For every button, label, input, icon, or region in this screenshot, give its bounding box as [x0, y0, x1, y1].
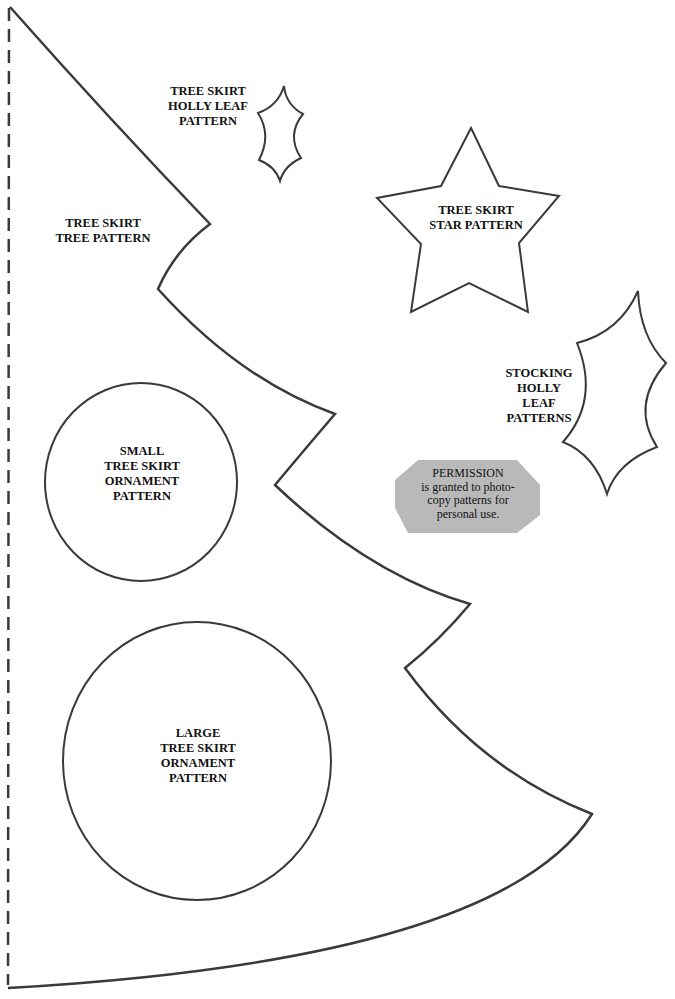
- holly-leaf-stocking-outline: [563, 291, 666, 494]
- label-line: HOLLY: [505, 381, 572, 396]
- label-line: STOCKING: [505, 366, 572, 381]
- pattern-outlines: [0, 0, 675, 999]
- label-line: TREE PATTERN: [55, 231, 150, 246]
- small-ornament-label: SMALL TREE SKIRT ORNAMENT PATTERN: [104, 444, 180, 504]
- permission-line: personal use.: [421, 508, 515, 522]
- label-line: ORNAMENT: [160, 756, 236, 771]
- star-pattern-label: TREE SKIRT STAR PATTERN: [429, 203, 522, 233]
- tree-pattern-label: TREE SKIRT TREE PATTERN: [55, 216, 150, 246]
- label-line: LEAF: [505, 396, 572, 411]
- label-line: PATTERN: [168, 114, 248, 129]
- label-line: HOLLY LEAF: [168, 99, 248, 114]
- label-line: STAR PATTERN: [429, 218, 522, 233]
- fold-line: [8, 8, 9, 985]
- label-line: SMALL: [104, 444, 180, 459]
- label-line: LARGE: [160, 726, 236, 741]
- stocking-holly-label: STOCKING HOLLY LEAF PATTERNS: [505, 366, 572, 426]
- permission-notice: PERMISSION is granted to photo- copy pat…: [421, 467, 515, 521]
- holly-leaf-small-outline: [258, 86, 303, 181]
- permission-line: PERMISSION: [421, 467, 515, 481]
- label-line: TREE SKIRT: [55, 216, 150, 231]
- permission-line: is granted to photo-: [421, 481, 515, 495]
- label-line: PATTERN: [104, 489, 180, 504]
- label-line: PATTERN: [160, 771, 236, 786]
- label-line: TREE SKIRT: [160, 741, 236, 756]
- label-line: TREE SKIRT: [168, 84, 248, 99]
- permission-line: copy patterns for: [421, 494, 515, 508]
- large-ornament-label: LARGE TREE SKIRT ORNAMENT PATTERN: [160, 726, 236, 786]
- holly-leaf-small-label: TREE SKIRT HOLLY LEAF PATTERN: [168, 84, 248, 129]
- label-line: TREE SKIRT: [104, 459, 180, 474]
- label-line: ORNAMENT: [104, 474, 180, 489]
- pattern-sheet: TREE SKIRT TREE PATTERN TREE SKIRT HOLLY…: [0, 0, 675, 999]
- label-line: PATTERNS: [505, 411, 572, 426]
- label-line: TREE SKIRT: [429, 203, 522, 218]
